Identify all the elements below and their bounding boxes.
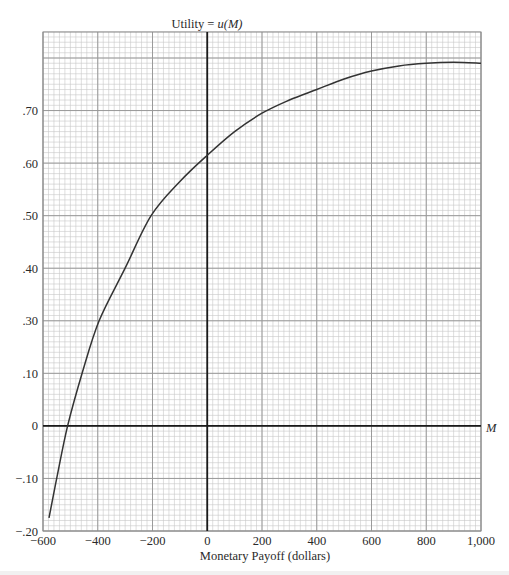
x-tick-label: 1,000 — [467, 534, 495, 548]
chart-title: Utility = u(M) — [172, 17, 243, 31]
y-tick-label: .40 — [22, 262, 38, 276]
y-tick-label: −.10 — [15, 472, 38, 486]
x-tick-label: 400 — [307, 534, 326, 548]
y-tick-label: 0 — [32, 419, 38, 433]
bottom-band — [0, 571, 509, 575]
y-tick-label: .60 — [22, 157, 38, 171]
x-tick-label: 800 — [417, 534, 436, 548]
y-tick-labels: .70.60.50.40.30.100−.10−.20 — [15, 104, 38, 538]
y-tick-label: .50 — [22, 209, 38, 223]
x-tick-label: −200 — [140, 534, 166, 548]
y-tick-label: .30 — [22, 314, 38, 328]
x-tick-label: −600 — [30, 534, 56, 548]
utility-curve — [49, 62, 481, 518]
utility-chart: .70.60.50.40.30.100−.10−.20 −600−400−200… — [0, 0, 509, 575]
x-tick-label: 0 — [204, 534, 210, 548]
x-axis-title: Monetary Payoff (dollars) — [200, 549, 330, 563]
y-tick-label: .10 — [22, 367, 38, 381]
x-tick-label: −400 — [85, 534, 111, 548]
x-axis-end-label: M — [485, 421, 497, 435]
x-tick-label: 600 — [362, 534, 381, 548]
y-tick-label: .70 — [22, 104, 38, 118]
x-tick-label: 200 — [253, 534, 272, 548]
x-tick-labels: −600−400−20002004006008001,000 — [30, 534, 495, 548]
